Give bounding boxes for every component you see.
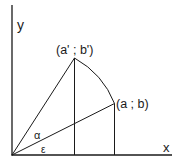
y-axis-label: y — [17, 17, 24, 33]
epsilon-angle-label: ε — [41, 144, 46, 155]
alpha-angle-label: α — [34, 129, 41, 141]
rotated-point-label: (a' ; b') — [56, 43, 93, 57]
rotation-diagram: y x (a' ; b') (a ; b) α ε — [0, 0, 183, 165]
x-axis-label: x — [163, 140, 170, 155]
rotation-arc — [75, 58, 115, 104]
original-point-label: (a ; b) — [116, 97, 149, 111]
radius-to-rotated-point — [12, 58, 75, 155]
radius-to-original-point — [12, 104, 115, 156]
